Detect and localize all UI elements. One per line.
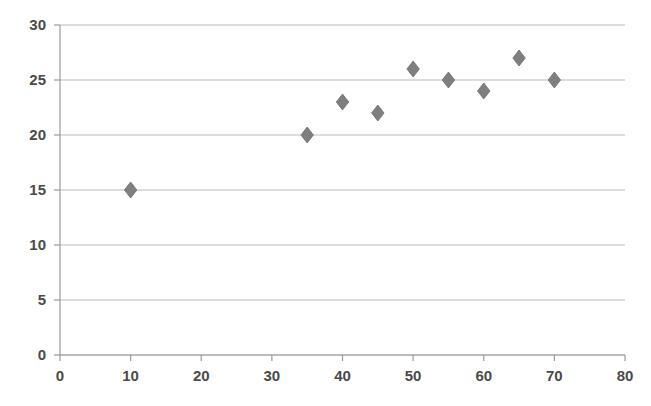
data-point bbox=[336, 94, 348, 110]
x-tick-label-70: 70 bbox=[546, 367, 563, 384]
x-tick-label-30: 30 bbox=[264, 367, 281, 384]
data-point bbox=[372, 105, 384, 121]
y-tick-label-5: 5 bbox=[38, 291, 46, 308]
data-point bbox=[442, 72, 454, 88]
y-tick-label-group: 051015202530 bbox=[29, 16, 46, 363]
data-point bbox=[407, 61, 419, 77]
data-point bbox=[301, 127, 313, 143]
y-tick-label-10: 10 bbox=[29, 236, 46, 253]
y-tick-label-25: 25 bbox=[29, 71, 46, 88]
x-tick-label-20: 20 bbox=[193, 367, 210, 384]
x-tick-label-10: 10 bbox=[122, 367, 139, 384]
data-point bbox=[124, 182, 136, 198]
x-tick-group bbox=[60, 355, 625, 361]
y-tick-label-15: 15 bbox=[29, 181, 46, 198]
x-tick-label-group: 01020304050607080 bbox=[56, 367, 634, 384]
y-tick-label-20: 20 bbox=[29, 126, 46, 143]
scatter-chart: 01020304050607080 051015202530 bbox=[0, 0, 651, 406]
y-tick-group bbox=[54, 25, 60, 355]
data-point bbox=[548, 72, 560, 88]
data-point-group bbox=[124, 50, 560, 198]
y-tick-label-0: 0 bbox=[38, 346, 46, 363]
x-tick-label-80: 80 bbox=[617, 367, 634, 384]
x-tick-label-40: 40 bbox=[334, 367, 351, 384]
data-point bbox=[478, 83, 490, 99]
x-tick-label-0: 0 bbox=[56, 367, 64, 384]
y-tick-label-30: 30 bbox=[29, 16, 46, 33]
x-tick-label-50: 50 bbox=[405, 367, 422, 384]
data-point bbox=[513, 50, 525, 66]
x-tick-label-60: 60 bbox=[475, 367, 492, 384]
chart-canvas: 01020304050607080 051015202530 bbox=[0, 0, 651, 406]
gridline-group bbox=[60, 25, 625, 355]
